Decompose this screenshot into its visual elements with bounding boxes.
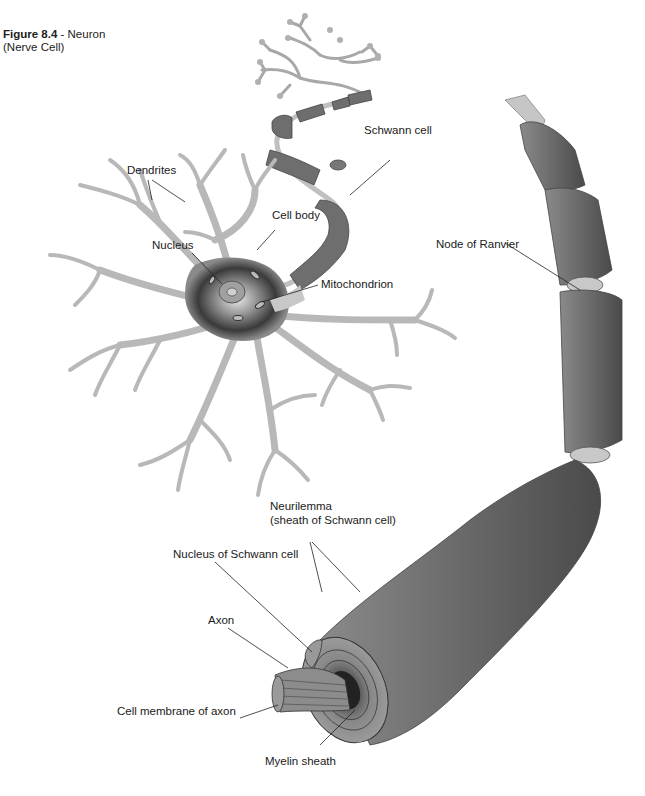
label-myelin-sheath: Myelin sheath (265, 755, 336, 768)
label-nucleus-of-schwann-cell: Nucleus of Schwann cell (173, 548, 298, 561)
label-cell-membrane-of-axon: Cell membrane of axon (117, 705, 236, 718)
label-axon: Axon (208, 614, 234, 627)
label-mitochondrion: Mitochondrion (321, 278, 393, 291)
axon-terminals (258, 16, 378, 96)
label-cell-body: Cell body (272, 209, 320, 222)
label-neurilemma: Neurilemma (270, 500, 332, 513)
label-dendrites: Dendrites (127, 164, 176, 177)
label-schwann-cell: Schwann cell (364, 124, 432, 137)
neuron-illustration (0, 0, 645, 796)
label-nucleus: Nucleus (152, 239, 194, 252)
label-neurilemma-subtitle: (sheath of Schwann cell) (270, 514, 396, 527)
label-node-of-ranvier: Node of Ranvier (436, 238, 519, 251)
